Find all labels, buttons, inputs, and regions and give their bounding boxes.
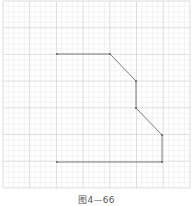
vertex-dot <box>161 134 163 136</box>
vertex-dot <box>109 53 111 55</box>
vertex-dot <box>161 161 163 163</box>
figure-caption: 图4—66 <box>0 193 193 206</box>
grid-diagram <box>0 0 193 192</box>
vertex-dot <box>135 80 137 82</box>
vertex-dot <box>56 53 58 55</box>
vertex-dot <box>56 161 58 163</box>
vertex-dot <box>135 107 137 109</box>
